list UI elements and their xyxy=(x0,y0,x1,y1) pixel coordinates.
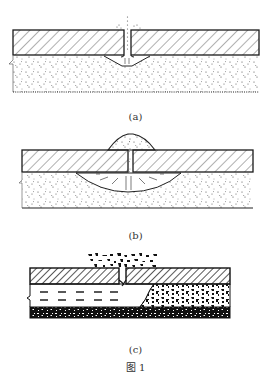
caption-a: (a) xyxy=(0,111,271,122)
panel-a xyxy=(9,16,262,92)
figure-title: 图 1 xyxy=(0,359,271,374)
caption-c: (c) xyxy=(0,344,271,355)
panel-c xyxy=(27,253,230,318)
panel-c-subgrade xyxy=(30,307,230,318)
panel-b xyxy=(19,134,256,208)
panel-c-ejected-debris xyxy=(88,253,157,267)
caption-b: (b) xyxy=(0,230,271,241)
panel-c-slab xyxy=(30,268,230,286)
panel-c-base-layer xyxy=(27,284,230,307)
pavement-pumping-diagram xyxy=(0,0,271,377)
panel-a-slab xyxy=(13,30,259,57)
